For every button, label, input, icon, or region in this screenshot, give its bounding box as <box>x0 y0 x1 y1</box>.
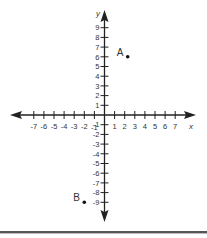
coordinate-plane: yx-7-6-5-4-3-2-11234567987654321-1-2-3-4… <box>0 0 207 238</box>
y-tick-label: -8 <box>93 188 100 197</box>
x-tick-label: 5 <box>153 122 157 131</box>
y-tick-label: -4 <box>93 150 100 159</box>
y-axis-label: y <box>95 9 101 18</box>
x-tick-label: 3 <box>133 122 137 131</box>
point-a-label: A <box>117 47 124 58</box>
y-tick-label: 1 <box>95 101 99 110</box>
y-tick-label: 6 <box>95 53 99 62</box>
y-tick-label: -5 <box>93 159 100 168</box>
y-tick-label: 4 <box>95 72 99 81</box>
bottom-divider-shadow <box>0 233 207 234</box>
y-tick-label: 9 <box>95 23 99 32</box>
y-tick-label: 8 <box>95 33 99 42</box>
x-tick-label: 6 <box>163 122 167 131</box>
y-tick-label: -9 <box>93 198 100 207</box>
y-tick-label: 5 <box>95 62 99 71</box>
x-tick-label: -5 <box>51 122 58 131</box>
x-tick-label: -4 <box>61 122 68 131</box>
point-b-label: B <box>73 192 80 203</box>
y-tick-label: -1 <box>93 120 100 129</box>
y-tick-label: -6 <box>93 169 100 178</box>
y-tick-label: -3 <box>93 140 100 149</box>
y-tick-label: 2 <box>95 91 99 100</box>
x-tick-label: -6 <box>41 122 48 131</box>
x-tick-label: 2 <box>123 122 127 131</box>
point-a-marker <box>126 55 130 59</box>
x-tick-label: -7 <box>30 122 37 131</box>
x-axis-label: x <box>188 122 194 131</box>
y-tick-label: -7 <box>93 179 100 188</box>
y-tick-label: 7 <box>95 43 99 52</box>
x-tick-label: -3 <box>71 122 78 131</box>
x-tick-label: 7 <box>173 122 177 131</box>
x-tick-label: 4 <box>143 122 147 131</box>
point-b-marker <box>83 201 87 205</box>
y-tick-label: -2 <box>93 130 100 139</box>
x-tick-label: -2 <box>81 122 88 131</box>
y-tick-label: 3 <box>95 82 99 91</box>
x-tick-label: 1 <box>113 122 117 131</box>
